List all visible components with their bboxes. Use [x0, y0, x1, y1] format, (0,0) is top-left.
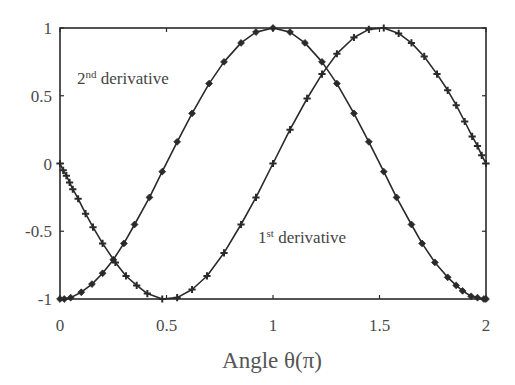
plus-marker-icon	[252, 194, 259, 201]
markers-1st-derivative	[56, 24, 489, 302]
diamond-marker-icon	[67, 294, 74, 301]
series-1st-derivative	[56, 24, 489, 302]
x-tick-label: 0	[56, 316, 65, 335]
diamond-marker-icon	[159, 168, 166, 175]
annotation-text: derivative	[274, 228, 346, 247]
y-tick-label: 0	[44, 155, 53, 174]
y-tick-labels: 10.50-0.5-1	[25, 19, 52, 309]
diamond-marker-icon	[380, 168, 387, 175]
x-tick-label: 1.5	[369, 316, 390, 335]
plus-marker-icon	[82, 210, 89, 217]
plus-marker-icon	[237, 221, 244, 228]
plus-marker-icon	[461, 118, 468, 125]
plus-marker-icon	[478, 152, 485, 159]
plot-series	[56, 24, 489, 302]
diamond-marker-icon	[474, 294, 481, 301]
diamond-marker-icon	[408, 221, 415, 228]
x-tick-labels: 00.511.52	[56, 316, 491, 335]
diamond-marker-icon	[189, 110, 196, 117]
curve-annotation: 1st derivative	[258, 227, 346, 247]
x-tick-label: 0.5	[156, 316, 177, 335]
annotation-superscript: nd	[86, 68, 98, 80]
x-tick-label: 1	[269, 316, 278, 335]
plus-marker-icon	[469, 133, 476, 140]
y-tick-label: 0.5	[31, 87, 52, 106]
diamond-marker-icon	[146, 194, 153, 201]
y-tick-label: 1	[44, 19, 53, 38]
x-axis-title: Angle θ(π)	[222, 348, 322, 373]
annotation-superscript: st	[267, 227, 274, 239]
curve-annotations: 2nd derivative1st derivative	[77, 68, 346, 248]
plus-marker-icon	[453, 102, 460, 109]
annotation-text: derivative	[97, 69, 169, 88]
plus-marker-icon	[174, 294, 181, 301]
y-tick-label: -1	[38, 290, 52, 309]
x-tick-label: 2	[482, 316, 491, 335]
plus-marker-icon	[269, 160, 276, 167]
derivative-chart: 00.511.52 10.50-0.5-1 2nd derivative1st …	[0, 0, 515, 385]
plus-marker-icon	[69, 186, 76, 193]
diamond-marker-icon	[351, 110, 358, 117]
plus-marker-icon	[89, 224, 96, 231]
diamond-marker-icon	[174, 138, 181, 145]
plus-marker-icon	[286, 126, 293, 133]
plus-marker-icon	[75, 195, 82, 202]
curve-annotation: 2nd derivative	[77, 68, 169, 88]
diamond-marker-icon	[393, 194, 400, 201]
plus-marker-icon	[365, 26, 372, 33]
annotation-number: 2	[77, 69, 86, 88]
annotation-number: 1	[258, 228, 267, 247]
plus-marker-icon	[474, 142, 481, 149]
chart-canvas: 00.511.52 10.50-0.5-1 2nd derivative1st …	[0, 0, 515, 385]
plus-marker-icon	[66, 179, 73, 186]
y-tick-label: -0.5	[25, 222, 52, 241]
diamond-marker-icon	[131, 221, 138, 228]
diamond-marker-icon	[365, 138, 372, 145]
